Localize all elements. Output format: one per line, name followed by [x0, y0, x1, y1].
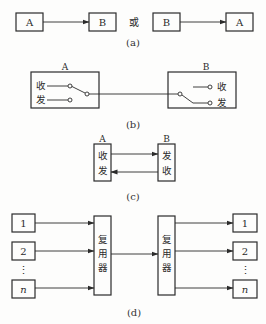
output-label-1: 1	[242, 218, 248, 229]
or-label: 或	[129, 17, 139, 28]
station-b-switch-blade	[182, 95, 193, 103]
station-b-switch-pivot	[178, 92, 182, 96]
input-label-2: 2	[20, 246, 26, 257]
station-a-switch-blade	[71, 86, 85, 93]
mux-left-char1: 复	[98, 234, 108, 245]
panel-c-full-duplex: A 收 发 B 发 收 (c)	[94, 134, 175, 202]
station-b-receive-contact	[208, 85, 212, 89]
station-a-send-label: 发	[36, 94, 46, 105]
station-b-title: B	[203, 62, 210, 72]
station-b-receive-label: 收	[217, 81, 227, 92]
input-label-1: 1	[20, 218, 26, 229]
input-label-n: n	[20, 284, 26, 295]
caption-a: (a)	[126, 37, 140, 48]
station-a-char1: 收	[98, 150, 108, 161]
mux-left-char2: 用	[98, 248, 108, 259]
station-b-char1: 发	[162, 150, 172, 161]
caption-d: (d)	[127, 307, 141, 318]
panel-b-half-duplex: A 收 发 B 收 发 (b)	[31, 62, 236, 130]
box-a-left-label: A	[25, 17, 34, 28]
station-a-title-c: A	[98, 134, 106, 144]
station-a-receive-contact	[68, 84, 72, 88]
station-a-char2: 发	[98, 165, 108, 176]
mux-right-char2: 用	[162, 248, 172, 259]
box-b-right-label: B	[163, 17, 170, 28]
station-b-title-c: B	[163, 134, 170, 144]
output-label-n: n	[242, 284, 248, 295]
caption-b: (b)	[126, 119, 140, 130]
station-b-char2: 收	[162, 165, 172, 176]
mux-right-char1: 复	[162, 234, 172, 245]
station-b-send-contact	[208, 101, 212, 105]
output-ellipsis: ⋮	[240, 264, 251, 277]
station-b-send-label: 发	[217, 97, 227, 108]
input-ellipsis: ⋮	[18, 264, 29, 277]
mux-right-char3: 器	[162, 262, 172, 273]
station-a-title: A	[61, 62, 69, 72]
output-label-2: 2	[242, 246, 248, 257]
panel-d-multiplexing: 1 2 ⋮ n 复 用 器 复 用 器 1 2 ⋮ n (d)	[12, 214, 257, 318]
box-b-left-label: B	[99, 17, 106, 28]
box-a-right-label: A	[235, 17, 244, 28]
station-a-receive-label: 收	[36, 80, 46, 91]
station-a-send-contact	[68, 98, 72, 102]
station-a-switch-pivot	[85, 92, 89, 96]
communication-modes-diagram: A B 或 B A (a) A 收 发 B 收 发 (b)	[0, 0, 266, 324]
mux-left-char3: 器	[98, 262, 108, 273]
panel-a-simplex: A B 或 B A (a)	[16, 13, 253, 48]
caption-c: (c)	[126, 191, 140, 202]
